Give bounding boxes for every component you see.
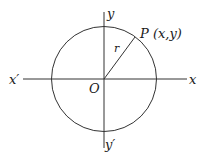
- label-x-prime: x′: [9, 72, 19, 87]
- label-origin: O: [89, 81, 100, 96]
- label-x: x: [189, 72, 197, 87]
- label-y-prime: y′: [104, 137, 115, 152]
- label-radius: r: [114, 42, 120, 55]
- label-y: y: [106, 6, 115, 21]
- label-point-p: P (x,y): [139, 26, 182, 41]
- radius-line: [104, 37, 135, 79]
- diagram-canvas: y P (x,y) r x′ x O y′: [0, 0, 207, 161]
